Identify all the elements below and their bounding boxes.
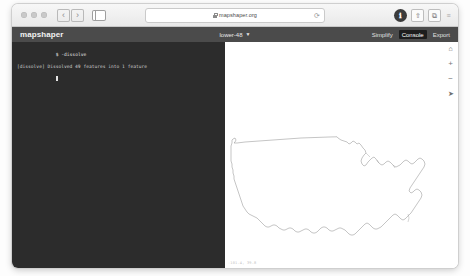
reload-icon[interactable]: ⟳ [314, 12, 320, 19]
zoom-out-icon[interactable]: − [446, 74, 455, 83]
share-icon[interactable]: ⇧ [411, 9, 424, 22]
map-canvas[interactable] [225, 42, 458, 268]
map-panel[interactable]: ⌂ + − ➤ -101.4, 39.8 [225, 42, 458, 268]
simplify-button[interactable]: Simplify [371, 31, 394, 39]
close-window-button[interactable] [21, 12, 27, 18]
header-actions: Simplify Console Export [371, 30, 451, 39]
window-controls [21, 12, 47, 18]
map-toolbar: ⌂ + − ➤ [446, 44, 455, 98]
minimize-window-button[interactable] [31, 12, 37, 18]
app-panels: $ -dissolve [dissolve] Dissolved 49 feat… [12, 42, 458, 268]
console-panel[interactable]: $ -dissolve [dissolve] Dissolved 49 feat… [12, 42, 225, 268]
lower-48-outline[interactable] [231, 137, 425, 235]
console-button[interactable]: Console [399, 30, 427, 39]
console-command-text: -dissolve [61, 52, 86, 57]
browser-toolbar: ‹ › mapshaper.org ⟳ ℹ ⇧ ⧉ ≡ [12, 4, 458, 27]
browser-window: ‹ › mapshaper.org ⟳ ℹ ⇧ ⧉ ≡ mapshaper [12, 4, 458, 268]
url-text: mapshaper.org [219, 12, 257, 18]
chevron-down-icon: ▼ [246, 32, 251, 37]
privacy-report-icon[interactable]: ℹ [394, 9, 407, 22]
console-cursor [56, 76, 58, 81]
console-input-line[interactable] [17, 70, 225, 88]
console-command-line: $ -dissolve [17, 46, 225, 64]
layer-name-label: lower-48 [220, 32, 243, 38]
browser-toolbar-right: ℹ ⇧ ⧉ ≡ [394, 9, 452, 22]
zoom-in-icon[interactable]: + [446, 59, 455, 68]
home-icon[interactable]: ⌂ [446, 44, 455, 53]
pointer-icon[interactable]: ➤ [446, 89, 455, 98]
mapshaper-app: mapshaper lower-48 ▼ Simplify Console Ex… [12, 27, 458, 268]
export-button[interactable]: Export [432, 31, 451, 39]
address-bar[interactable]: mapshaper.org ⟳ [145, 8, 325, 23]
app-header: mapshaper lower-48 ▼ Simplify Console Ex… [12, 27, 458, 42]
coordinate-readout: -101.4, 39.8 [228, 261, 256, 265]
maximize-window-button[interactable] [41, 12, 47, 18]
navigation-buttons: ‹ › [57, 9, 84, 22]
forward-button[interactable]: › [71, 9, 84, 22]
lock-icon [213, 13, 217, 18]
new-tab-icon[interactable]: ⧉ [428, 9, 441, 22]
layer-menu[interactable]: lower-48 ▼ [220, 32, 251, 38]
sidebar-toggle-icon[interactable] [92, 10, 106, 21]
app-title: mapshaper [20, 30, 64, 39]
screen-root: ‹ › mapshaper.org ⟳ ℹ ⇧ ⧉ ≡ mapshaper [0, 0, 470, 276]
tab-overview-icon[interactable]: ≡ [445, 9, 452, 22]
back-button[interactable]: ‹ [57, 9, 70, 22]
console-output: $ -dissolve [dissolve] Dissolved 49 feat… [12, 42, 225, 88]
